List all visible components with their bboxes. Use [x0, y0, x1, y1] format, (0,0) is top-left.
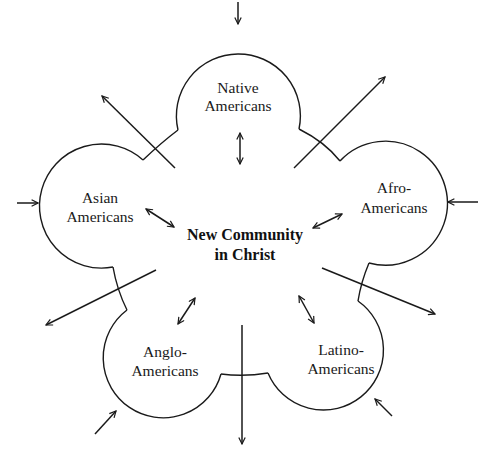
group-anglo-line1: Anglo- — [143, 343, 187, 360]
connector-asian-native — [143, 130, 178, 160]
group-native-line2: Americans — [204, 97, 271, 114]
group-afro-line2: Americans — [360, 199, 427, 216]
group-native: Native Americans — [204, 79, 271, 114]
double-arrow-anglo-icon — [178, 298, 195, 324]
group-anglo-line2: Americans — [131, 362, 198, 379]
group-anglo: Anglo- Americans — [131, 343, 198, 379]
connector-latino-anglo — [221, 373, 268, 375]
group-asian: Asian Americans — [66, 189, 133, 225]
arrow-out-upper-left-icon — [102, 96, 175, 168]
community-diagram: Native Americans Asian Americans Afro- A… — [0, 0, 495, 460]
arrow-in-bottom-right-icon — [375, 399, 392, 416]
center-line1: New Community — [187, 226, 303, 244]
arrow-in-bottom-left-icon — [95, 411, 116, 434]
lobe-asian — [40, 144, 143, 268]
arrow-out-upper-right-icon — [294, 77, 385, 168]
group-afro: Afro- Americans — [360, 179, 427, 216]
group-native-line1: Native — [217, 79, 258, 96]
center-line2: in Christ — [215, 246, 277, 263]
group-latino-line2: Americans — [307, 360, 374, 377]
group-asian-line2: Americans — [66, 208, 133, 225]
group-afro-line1: Afro- — [377, 179, 411, 196]
double-arrow-latino-icon — [299, 296, 314, 323]
group-latino: Latino- Americans — [307, 341, 374, 377]
group-latino-line1: Latino- — [318, 341, 364, 358]
arrow-out-lower-left-icon — [46, 270, 156, 325]
double-arrow-afro-icon — [313, 214, 342, 228]
arrow-out-lower-right-icon — [322, 268, 435, 314]
double-arrow-asian-icon — [146, 209, 174, 227]
connector-afro-latino — [358, 263, 369, 301]
group-asian-line1: Asian — [82, 189, 118, 206]
center-label: New Community in Christ — [187, 226, 303, 263]
